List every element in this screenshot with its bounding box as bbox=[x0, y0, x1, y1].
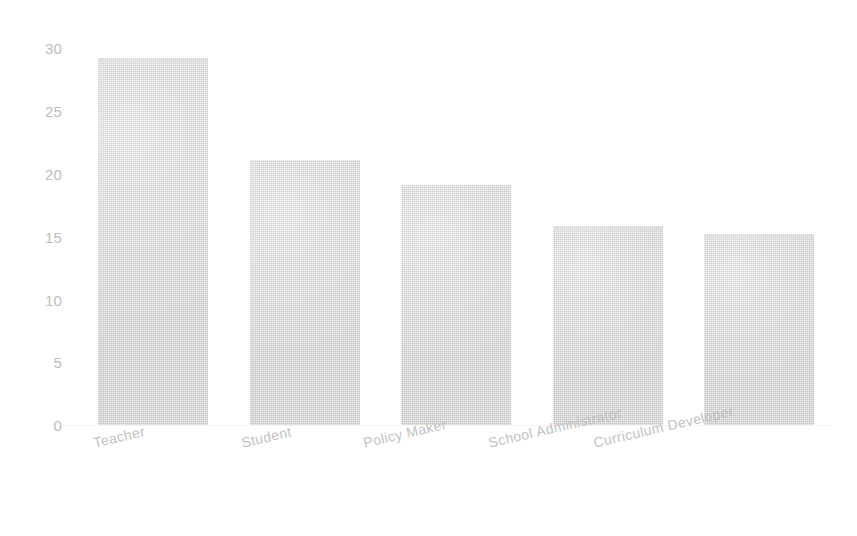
y-axis-tick-label: 5 bbox=[22, 355, 62, 370]
x-axis-tick-label-student: Student bbox=[240, 425, 293, 450]
bar-curriculum-developer bbox=[704, 234, 814, 425]
bar-student bbox=[250, 160, 360, 425]
plot-area: 30 25 20 15 10 5 0 Teacher Student Polic… bbox=[0, 0, 857, 536]
y-axis-tick-label: 25 bbox=[22, 104, 62, 119]
bar-policy-maker bbox=[401, 185, 511, 425]
y-axis-tick-label: 0 bbox=[22, 418, 62, 433]
y-axis-tick-label: 15 bbox=[22, 230, 62, 245]
bar-school-administrator bbox=[553, 226, 663, 425]
y-axis-tick-label: 30 bbox=[22, 41, 62, 56]
bar-teacher bbox=[98, 58, 208, 425]
y-axis-tick-label: 10 bbox=[22, 293, 62, 308]
bar-chart: 30 25 20 15 10 5 0 Teacher Student Polic… bbox=[0, 0, 857, 536]
y-axis-tick-label: 20 bbox=[22, 167, 62, 182]
x-axis-tick-label-teacher: Teacher bbox=[92, 424, 146, 449]
